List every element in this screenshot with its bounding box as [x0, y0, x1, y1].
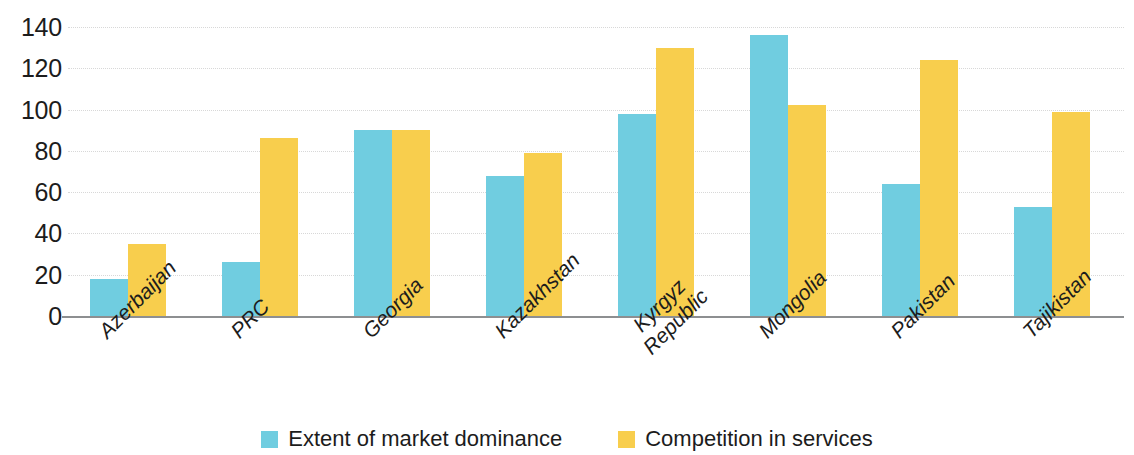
y-axis-tick-label: 40 [0, 221, 62, 246]
y-axis-tick-label: 60 [0, 180, 62, 205]
y-axis-tick-label: 140 [0, 15, 62, 40]
y-axis-tick-label: 100 [0, 97, 62, 122]
chart-legend: Extent of market dominanceCompetition in… [0, 428, 1134, 450]
legend-swatch-icon [261, 431, 278, 448]
legend-item[interactable]: Competition in services [618, 428, 872, 450]
bar [486, 176, 524, 316]
y-axis-tick-label: 80 [0, 138, 62, 163]
bar-group [222, 27, 298, 316]
bars-layer [68, 27, 1124, 316]
bar [618, 114, 656, 316]
y-axis-tick-label: 0 [0, 304, 62, 329]
legend-label: Competition in services [645, 428, 872, 450]
bar [260, 138, 298, 316]
y-axis-tick-label: 20 [0, 262, 62, 287]
legend-label: Extent of market dominance [288, 428, 562, 450]
bar-group [354, 27, 430, 316]
y-axis-tick-label: 120 [0, 56, 62, 81]
y-axis: 020406080100120140 [0, 0, 62, 455]
x-axis-category-labels: AzerbaijanPRCGeorgiaKazakhstanKyrgyzRepu… [68, 318, 1124, 428]
bar [750, 35, 788, 316]
bar-chart-figure: 020406080100120140 AzerbaijanPRCGeorgiaK… [0, 0, 1134, 455]
legend-item[interactable]: Extent of market dominance [261, 428, 562, 450]
legend-swatch-icon [618, 431, 635, 448]
bar [354, 130, 392, 316]
